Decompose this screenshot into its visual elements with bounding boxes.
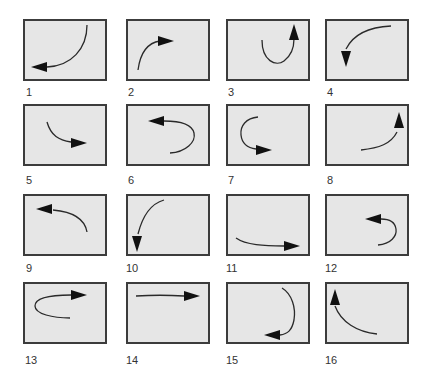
panel-8	[325, 104, 409, 166]
panel-label-6: 6	[128, 175, 134, 186]
curved-arrow-left-icon	[25, 21, 105, 79]
panel-6	[126, 104, 210, 166]
panel-4	[325, 19, 409, 81]
curved-arrow-right-icon	[228, 196, 308, 254]
panel-label-2: 2	[128, 87, 134, 98]
panel-3	[226, 19, 310, 81]
u-turn-arrow-left-icon	[128, 106, 208, 164]
panel-label-11: 11	[226, 263, 237, 274]
panel-label-13: 13	[25, 355, 37, 366]
curved-arrow-left-icon	[25, 196, 105, 254]
straight-arrow-right-icon	[128, 284, 208, 342]
panel-label-15: 15	[226, 355, 238, 366]
panel-5	[23, 104, 107, 166]
panel-label-3: 3	[228, 87, 234, 98]
panel-label-1: 1	[26, 87, 32, 98]
panel-label-7: 7	[228, 175, 234, 186]
panel-13	[23, 282, 107, 344]
curved-arrow-down-icon	[327, 21, 407, 79]
u-turn-arrow-left-icon	[228, 284, 308, 342]
curved-arrow-right-icon	[25, 106, 105, 164]
panel-label-10: 10	[126, 263, 138, 274]
panel-label-9: 9	[26, 263, 32, 274]
panel-label-8: 8	[327, 175, 333, 186]
u-turn-arrow-right-icon	[25, 284, 105, 342]
panel-label-12: 12	[325, 263, 337, 274]
panel-label-16: 16	[325, 355, 337, 366]
curved-arrow-up-icon	[327, 284, 407, 342]
curved-arrow-up-icon	[327, 106, 407, 164]
panel-11	[226, 194, 310, 256]
panel-label-4: 4	[327, 87, 333, 98]
curved-arrow-down-icon	[128, 196, 208, 254]
u-turn-arrow-up-icon	[228, 21, 308, 79]
panel-1	[23, 19, 107, 81]
panel-7	[226, 104, 310, 166]
panel-label-14: 14	[126, 355, 138, 366]
panel-15	[226, 282, 310, 344]
panel-16	[325, 282, 409, 344]
panel-14	[126, 282, 210, 344]
u-turn-arrow-right-icon	[228, 106, 308, 164]
panel-9	[23, 194, 107, 256]
u-turn-arrow-left-icon	[327, 196, 407, 254]
panel-12	[325, 194, 409, 256]
curved-arrow-right-icon	[128, 21, 208, 79]
panel-10	[126, 194, 210, 256]
panel-2	[126, 19, 210, 81]
panel-label-5: 5	[26, 175, 32, 186]
